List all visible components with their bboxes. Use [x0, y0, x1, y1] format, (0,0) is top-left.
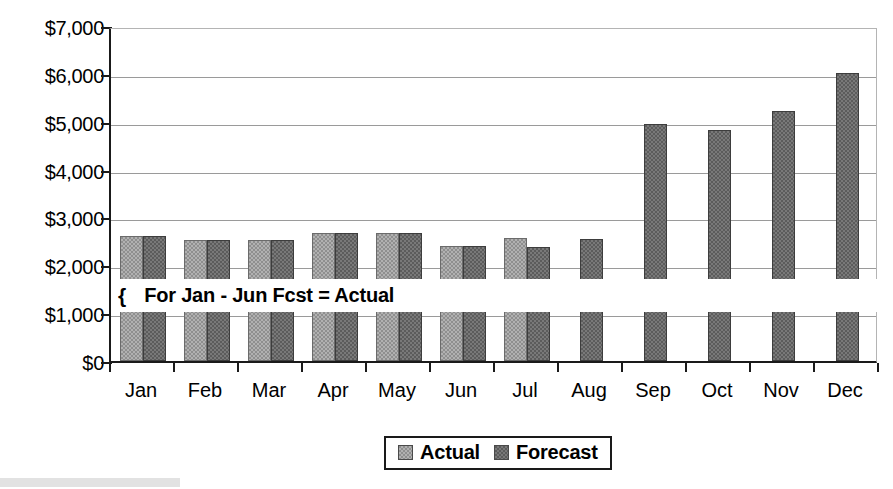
x-tick-label-aug: Aug	[571, 379, 607, 402]
x-tick-mark	[813, 363, 815, 372]
x-tick-label-apr: Apr	[317, 379, 348, 402]
legend-item-forecast[interactable]: Forecast	[494, 441, 598, 464]
scan-artifact	[0, 478, 180, 487]
plot-area: { For Jan - Jun Fcst = Actual	[109, 28, 877, 363]
x-tick-mark	[685, 363, 687, 372]
x-tick-mark	[237, 363, 239, 372]
x-tick-label-mar: Mar	[252, 379, 286, 402]
bar-forecast-dec	[836, 73, 859, 361]
x-tick-label-jul: Jul	[512, 379, 538, 402]
x-tick-label-feb: Feb	[188, 379, 222, 402]
x-tick-mark	[557, 363, 559, 372]
legend-item-actual[interactable]: Actual	[398, 441, 480, 464]
annotation-label: For Jan - Jun Fcst = Actual	[144, 284, 394, 307]
x-tick-mark	[749, 363, 751, 372]
x-tick-label-oct: Oct	[701, 379, 732, 402]
y-tick-label: $0	[4, 352, 104, 375]
legend-label: Forecast	[516, 441, 598, 464]
x-tick-mark	[365, 363, 367, 372]
y-tick-label: $4,000	[4, 160, 104, 183]
x-tick-label-dec: Dec	[827, 379, 863, 402]
bar-forecast-oct	[708, 130, 731, 361]
y-tick-label: $2,000	[4, 256, 104, 279]
x-tick-label-jan: Jan	[125, 379, 157, 402]
y-tick-label: $1,000	[4, 304, 104, 327]
x-tick-mark	[621, 363, 623, 372]
chart-legend: ActualForecast	[384, 436, 612, 470]
legend-swatch-actual-icon	[398, 445, 413, 460]
x-tick-mark	[173, 363, 175, 372]
x-tick-mark	[877, 363, 879, 372]
bar-forecast-sep	[644, 124, 667, 361]
x-tick-label-may: May	[378, 379, 416, 402]
x-tick-mark	[109, 363, 111, 372]
annotation-brace-icon: {	[118, 285, 126, 306]
y-tick-label: $7,000	[4, 17, 104, 40]
y-tick-label: $6,000	[4, 64, 104, 87]
x-tick-label-sep: Sep	[635, 379, 671, 402]
x-tick-mark	[493, 363, 495, 372]
x-tick-label-nov: Nov	[763, 379, 799, 402]
bar-chart: $0$1,000$2,000$3,000$4,000$5,000$6,000$7…	[0, 0, 893, 489]
x-tick-mark	[301, 363, 303, 372]
x-tick-mark	[429, 363, 431, 372]
annotation-callout: { For Jan - Jun Fcst = Actual	[112, 279, 878, 312]
y-axis: $0$1,000$2,000$3,000$4,000$5,000$6,000$7…	[0, 0, 104, 489]
x-tick-label-jun: Jun	[445, 379, 477, 402]
legend-swatch-forecast-icon	[494, 445, 509, 460]
y-tick-label: $3,000	[4, 208, 104, 231]
legend-label: Actual	[420, 441, 480, 464]
y-tick-label: $5,000	[4, 112, 104, 135]
bar-forecast-nov	[772, 111, 795, 361]
